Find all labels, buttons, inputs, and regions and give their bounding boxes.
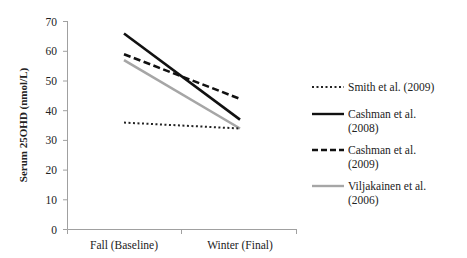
series-line-smith-et-al-2009 <box>124 123 240 129</box>
x-axis <box>68 230 298 235</box>
x-tick-label-fall: Fall (Baseline) <box>90 239 158 252</box>
y-tick-label: 40 <box>46 105 58 117</box>
legend-swatch-solid-gray <box>310 179 346 191</box>
y-tick-label: 50 <box>46 75 58 87</box>
y-tick-label: 10 <box>46 194 58 206</box>
y-tick-label: 60 <box>46 45 58 57</box>
legend-label: Cashman et al. <box>348 143 460 157</box>
series-line-viljakainen-et-al-2006 <box>124 60 240 128</box>
legend-item-cashman-2008: Cashman et al. (2008) <box>310 107 460 135</box>
y-tick-label: 0 <box>51 224 57 236</box>
legend-item-viljakainen-2006: Viljakainen et al. (2006) <box>310 179 460 207</box>
legend-swatch-dashed <box>310 143 346 155</box>
legend-label-year: (2006) <box>348 193 460 207</box>
legend-label-year: (2009) <box>348 157 460 171</box>
y-tick-labels: 0 10 20 30 40 50 60 70 <box>46 16 58 236</box>
y-tick-label: 20 <box>46 164 58 176</box>
series-layer <box>124 34 240 129</box>
legend-item-smith-2009: Smith et al. (2009) <box>310 80 460 94</box>
legend-label: Smith et al. (2009) <box>348 81 434 93</box>
legend-label: Viljakainen et al. <box>348 179 460 193</box>
legend-label: Cashman et al. <box>348 107 460 121</box>
legend-item-cashman-2009: Cashman et al. (2009) <box>310 143 460 171</box>
y-tick-label: 30 <box>46 134 58 146</box>
y-tick-label: 70 <box>46 16 58 28</box>
legend-swatch-dotted <box>310 80 346 92</box>
legend-label-year: (2008) <box>348 121 460 135</box>
x-tick-label-winter: Winter (Final) <box>207 239 273 252</box>
legend-swatch-solid-black <box>310 107 346 119</box>
y-axis <box>63 21 68 230</box>
series-line-cashman-et-al-2008 <box>124 34 240 120</box>
y-axis-title: Serum 25OHD (nmol/L) <box>17 68 30 183</box>
